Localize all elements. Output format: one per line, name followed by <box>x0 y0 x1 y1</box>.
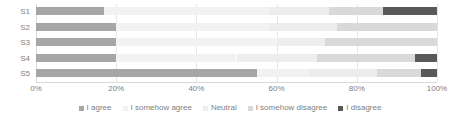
bar-segment-i-agree <box>36 69 257 77</box>
stacked-bar <box>36 7 437 15</box>
bar-segment-neutral <box>309 69 377 77</box>
legend-label: I agree <box>87 103 112 113</box>
legend-item-neutral[interactable]: Neutral <box>203 103 237 113</box>
bar-segment-i-somehow-disagree <box>329 7 383 15</box>
category-label-s1: S1 <box>20 4 30 20</box>
bar-segment-i-agree <box>36 54 116 62</box>
bar-segment-i-somehow-agree <box>257 69 309 77</box>
bar-segment-i-somehow-agree <box>116 54 236 62</box>
legend-swatch-icon <box>123 106 128 111</box>
bar-segment-i-somehow-disagree <box>317 54 415 62</box>
stacked-bar <box>36 38 437 46</box>
legend-swatch-icon <box>338 106 343 111</box>
legend-label: I disagree <box>346 103 381 113</box>
bar-segment-i-somehow-disagree <box>337 23 437 31</box>
legend-label: I somehow disagree <box>256 103 328 113</box>
stacked-bar-chart: S1S2S3S4S5 0%20%40%60%80%100% I agreeI s… <box>0 0 460 120</box>
chart-legend: I agreeI somehow agreeNeutralI somehow d… <box>0 100 460 116</box>
x-axis-line <box>36 82 437 83</box>
category-label-s4: S4 <box>20 51 30 67</box>
bar-segment-i-agree <box>36 38 116 46</box>
category-label-s5: S5 <box>20 66 30 82</box>
x-tick-label-100: 100% <box>427 84 447 93</box>
stacked-bar <box>36 23 437 31</box>
legend-label: Neutral <box>211 103 237 113</box>
bar-row-s2 <box>36 20 437 36</box>
bar-row-s4 <box>36 51 437 67</box>
bar-rows <box>36 4 437 82</box>
legend-item-i-agree[interactable]: I agree <box>79 103 112 113</box>
category-label-s2: S2 <box>20 20 30 36</box>
legend-swatch-icon <box>79 106 84 111</box>
stacked-bar <box>36 54 437 62</box>
bar-row-s5 <box>36 66 437 82</box>
gridline-100 <box>437 4 438 82</box>
legend-item-i-somehow-agree[interactable]: I somehow agree <box>123 103 192 113</box>
x-tick-label-40: 40% <box>188 84 204 93</box>
bar-segment-i-somehow-agree <box>116 38 276 46</box>
category-label-s3: S3 <box>20 35 30 51</box>
x-tick-label-0: 0% <box>30 84 42 93</box>
bar-segment-i-disagree <box>415 54 437 62</box>
bar-segment-neutral <box>237 54 317 62</box>
bar-segment-i-agree <box>36 7 104 15</box>
bar-segment-neutral <box>277 38 325 46</box>
legend-item-i-disagree[interactable]: I disagree <box>338 103 381 113</box>
bar-segment-i-somehow-agree <box>104 7 268 15</box>
stacked-bar <box>36 69 437 77</box>
bar-segment-i-agree <box>36 23 116 31</box>
bar-row-s1 <box>36 4 437 20</box>
bar-segment-i-disagree <box>383 7 437 15</box>
bar-segment-i-somehow-agree <box>116 23 268 31</box>
category-axis: S1S2S3S4S5 <box>0 4 34 82</box>
x-tick-label-80: 80% <box>349 84 365 93</box>
bar-segment-i-somehow-disagree <box>325 38 437 46</box>
x-tick-label-20: 20% <box>108 84 124 93</box>
bar-row-s3 <box>36 35 437 51</box>
legend-swatch-icon <box>203 106 208 111</box>
legend-item-i-somehow-disagree[interactable]: I somehow disagree <box>248 103 328 113</box>
bar-segment-neutral <box>269 23 337 31</box>
plot-area <box>36 4 437 82</box>
bar-segment-neutral <box>269 7 329 15</box>
bar-segment-i-somehow-disagree <box>377 69 421 77</box>
x-axis-ticks: 0%20%40%60%80%100% <box>36 84 437 96</box>
legend-label: I somehow agree <box>131 103 192 113</box>
x-tick-label-60: 60% <box>269 84 285 93</box>
bar-segment-i-disagree <box>421 69 437 77</box>
legend-swatch-icon <box>248 106 253 111</box>
